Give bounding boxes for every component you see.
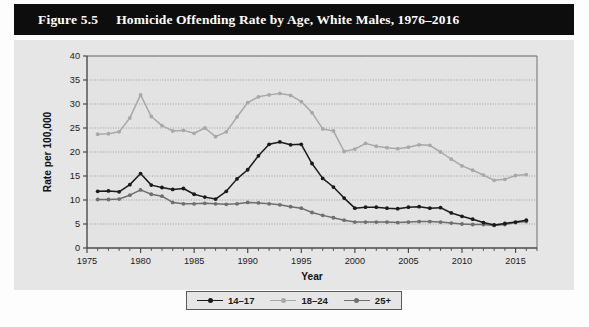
svg-text:0: 0 — [75, 243, 80, 253]
legend-marker-14-17 — [197, 296, 223, 306]
plot-area: 0510152025303540197519801985199019952000… — [14, 40, 574, 290]
legend-item-18-24[interactable]: 18–24 — [270, 295, 327, 306]
svg-text:35: 35 — [70, 75, 80, 85]
figure-title: Homicide Offending Rate by Age, White Ma… — [116, 12, 459, 28]
svg-text:20: 20 — [70, 147, 80, 157]
figure-container: Figure 5.5 Homicide Offending Rate by Ag… — [0, 0, 589, 327]
svg-text:40: 40 — [70, 51, 80, 61]
figure-title-bar: Figure 5.5 Homicide Offending Rate by Ag… — [14, 4, 574, 35]
svg-text:30: 30 — [70, 99, 80, 109]
legend-marker-25plus — [344, 296, 370, 306]
svg-text:2005: 2005 — [398, 256, 418, 266]
svg-text:2015: 2015 — [505, 256, 525, 266]
line-chart: 0510152025303540197519801985199019952000… — [14, 40, 574, 290]
svg-text:5: 5 — [75, 219, 80, 229]
legend-marker-18-24 — [270, 296, 296, 306]
legend-item-14-17[interactable]: 14–17 — [197, 295, 254, 306]
figure-number: Figure 5.5 — [38, 12, 98, 28]
legend-item-25plus[interactable]: 25+ — [344, 295, 391, 306]
chart-legend: 14–17 18–24 25+ — [186, 291, 402, 310]
svg-text:10: 10 — [70, 195, 80, 205]
svg-text:15: 15 — [70, 171, 80, 181]
svg-text:2010: 2010 — [452, 256, 472, 266]
svg-text:25: 25 — [70, 123, 80, 133]
svg-text:2000: 2000 — [345, 256, 365, 266]
chart-panel: 0510152025303540197519801985199019952000… — [14, 40, 574, 290]
svg-text:1975: 1975 — [77, 256, 97, 266]
legend-label-14-17: 14–17 — [228, 295, 254, 306]
legend-label-18-24: 18–24 — [301, 295, 327, 306]
svg-text:1980: 1980 — [130, 256, 150, 266]
svg-text:Rate per 100,000: Rate per 100,000 — [42, 111, 53, 192]
svg-text:1995: 1995 — [291, 256, 311, 266]
svg-text:1990: 1990 — [237, 256, 257, 266]
legend-label-25plus: 25+ — [375, 295, 391, 306]
svg-text:Year: Year — [301, 271, 323, 282]
svg-text:1985: 1985 — [184, 256, 204, 266]
